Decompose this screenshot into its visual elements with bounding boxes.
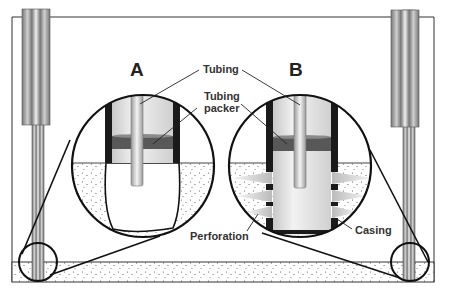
detail-circle-a bbox=[60, 90, 230, 253]
label-tubing: Tubing bbox=[203, 63, 239, 75]
well-completion-diagram: A B Tubing Tubing packer Perforation Cas… bbox=[0, 0, 450, 300]
panel-label-a: A bbox=[130, 64, 144, 76]
diagram-canvas bbox=[0, 0, 450, 300]
label-perforation: Perforation bbox=[190, 230, 249, 242]
label-casing: Casing bbox=[355, 224, 392, 236]
producing-formation bbox=[12, 262, 434, 282]
label-tubing-packer-line1: Tubing bbox=[204, 90, 240, 102]
left-wellbore bbox=[22, 9, 50, 280]
leader-tubing-a bbox=[140, 70, 199, 104]
right-wellbore bbox=[391, 10, 419, 280]
panel-label-b: B bbox=[289, 64, 303, 76]
label-tubing-packer-line2: packer bbox=[204, 102, 239, 114]
